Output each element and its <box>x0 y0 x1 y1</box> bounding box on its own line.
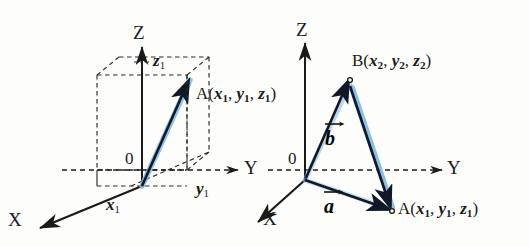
right-point-label-b: B(x2, y2, z2) <box>352 52 431 69</box>
vector-a-arrow-icon <box>323 188 334 195</box>
right-point-a-y-sub: 1 <box>446 207 452 219</box>
right-point-b-z: z <box>413 51 420 70</box>
vector-a-letter: a <box>323 195 334 218</box>
left-tick-label-z1: z1 <box>153 52 165 69</box>
left-point-a-sep2: , <box>250 84 259 103</box>
left-x-axis <box>40 186 142 228</box>
left-diagram-group <box>40 47 238 228</box>
right-point-a-z: z <box>460 199 467 218</box>
right-point-a-z-sub: 1 <box>467 207 473 219</box>
figure-root: (x₂ - x₁, y₂ - y₁, z₂ - z₁) <box>0 0 530 246</box>
right-axis-label-x: X <box>263 209 277 228</box>
right-vector-ba-highlight <box>352 88 392 207</box>
left-point-label-a: A(x1, y1, z1) <box>196 85 276 102</box>
right-axis-label-y: Y <box>447 158 461 177</box>
left-axis-label-z: Z <box>133 23 145 42</box>
right-point-b-x: x <box>369 51 378 70</box>
left-point-a-sep1: , <box>228 84 237 103</box>
left-tick-x1-sub: 1 <box>115 203 120 215</box>
right-vector-a-OA <box>305 180 388 209</box>
vector-a-label: a <box>323 188 334 218</box>
right-point-b-sep2: , <box>405 51 414 70</box>
left-axis-label-x: X <box>8 210 22 229</box>
right-point-b-close-paren: ) <box>426 51 432 70</box>
left-point-a-x-sub: 1 <box>222 92 228 104</box>
left-point-a-y: y <box>237 84 245 103</box>
left-point-a-z-sub: 1 <box>265 92 271 104</box>
left-tick-label-y1: y1 <box>196 180 209 197</box>
left-tick-z1-sub: 1 <box>160 59 165 71</box>
right-point-a-name: A <box>398 199 410 218</box>
right-point-a-sep2: , <box>452 199 461 218</box>
right-point-b-x-sub: 2 <box>378 59 384 71</box>
vector-b-letter: b <box>324 127 335 150</box>
left-tick-x1-var: x <box>106 195 115 214</box>
right-point-label-a: A(x1, y1, z1) <box>398 200 478 217</box>
left-point-a-z: z <box>258 84 265 103</box>
left-point-a-close-paren: ) <box>270 84 276 103</box>
vector-b-label: b <box>324 120 335 150</box>
right-point-b-y-sub: 2 <box>399 59 405 71</box>
left-tick-y1-var: y <box>196 179 204 198</box>
vector-b-arrow-icon <box>324 120 335 127</box>
right-point-a-dot <box>390 209 395 214</box>
left-tick-label-x1: x1 <box>106 196 120 213</box>
left-axis-label-y: Y <box>244 158 258 177</box>
right-axis-label-z: Z <box>296 20 308 39</box>
right-origin-label: 0 <box>288 150 297 167</box>
right-point-b-dot <box>348 78 353 83</box>
right-point-a-sep1: , <box>430 199 439 218</box>
left-point-a-name: A <box>196 84 208 103</box>
right-point-a-y: y <box>439 199 447 218</box>
right-point-a-close-paren: ) <box>472 199 478 218</box>
right-point-a-x-sub: 1 <box>424 207 430 219</box>
right-vector-ba <box>350 86 390 206</box>
left-origin-label: 0 <box>125 150 134 167</box>
left-tick-z1-var: z <box>153 51 160 70</box>
right-point-b-sep1: , <box>383 51 392 70</box>
left-point-a-y-sub: 1 <box>244 92 250 104</box>
right-point-b-z-sub: 2 <box>420 59 426 71</box>
right-point-b-name: B <box>352 51 363 70</box>
left-tick-y1-sub: 1 <box>204 187 209 199</box>
